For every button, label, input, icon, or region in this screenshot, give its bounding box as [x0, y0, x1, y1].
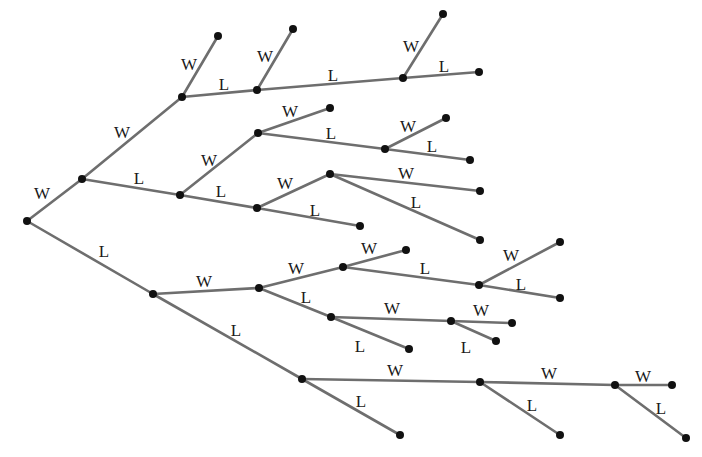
- tree-node-dot: [682, 434, 690, 442]
- win-label: W: [181, 55, 198, 74]
- tree-node-dot: [475, 281, 483, 289]
- tree-node-dot: [149, 290, 157, 298]
- win-loss-tree-diagram: WLWLWLWLWLWLWLWLWLWLWLWLWLWLWLWLWLWLWL: [0, 0, 702, 457]
- tree-node-dot: [476, 236, 484, 244]
- win-label: W: [288, 259, 305, 278]
- tree-node-dot: [178, 93, 186, 101]
- tree-node-dot: [327, 313, 335, 321]
- loss-label: L: [310, 201, 320, 220]
- tree-node-dot: [23, 217, 31, 225]
- tree-node-dot: [556, 294, 564, 302]
- tree-node-dot: [399, 74, 407, 82]
- edge-labels: WLWLWLWLWLWLWLWLWLWLWLWLWLWLWLWLWLWLWL: [34, 37, 666, 418]
- tree-node-dot: [289, 25, 297, 33]
- tree-node-dot: [492, 337, 500, 345]
- loss-branch: [27, 221, 153, 294]
- loss-branch: [343, 267, 479, 285]
- tree-node-dot: [253, 86, 261, 94]
- tree-node-dot: [508, 319, 516, 327]
- win-label: W: [196, 272, 213, 291]
- win-branch: [451, 321, 512, 323]
- win-branch: [82, 97, 182, 179]
- tree-node-dot: [253, 204, 261, 212]
- loss-label: L: [326, 124, 336, 143]
- tree-node-dot: [611, 381, 619, 389]
- tree-node-dot: [326, 170, 334, 178]
- loss-label: L: [420, 259, 430, 278]
- loss-branch: [257, 208, 360, 226]
- win-label: W: [398, 164, 415, 183]
- tree-node-dot: [466, 156, 474, 164]
- tree-nodes: [23, 10, 690, 442]
- tree-node-dot: [214, 32, 222, 40]
- loss-label: L: [516, 275, 526, 294]
- win-label: W: [34, 184, 51, 203]
- loss-label: L: [356, 392, 366, 411]
- tree-node-dot: [254, 129, 262, 137]
- tree-node-dot: [298, 375, 306, 383]
- loss-label: L: [231, 321, 241, 340]
- tree-node-dot: [396, 431, 404, 439]
- loss-branch: [153, 294, 302, 379]
- loss-label: L: [219, 75, 229, 94]
- loss-label: L: [301, 288, 311, 307]
- loss-label: L: [99, 242, 109, 261]
- tree-node-dot: [442, 114, 450, 122]
- loss-branch: [82, 179, 180, 195]
- win-label: W: [503, 246, 520, 265]
- tree-node-dot: [447, 317, 455, 325]
- win-label: W: [403, 37, 420, 56]
- loss-label: L: [216, 182, 226, 201]
- tree-node-dot: [326, 104, 334, 112]
- loss-branch: [451, 321, 496, 341]
- loss-branch: [615, 385, 686, 438]
- win-label: W: [361, 239, 378, 258]
- win-label: W: [541, 364, 558, 383]
- tree-node-dot: [475, 68, 483, 76]
- tree-node-dot: [255, 284, 263, 292]
- loss-label: L: [355, 337, 365, 356]
- win-label: W: [277, 174, 294, 193]
- loss-label: L: [656, 399, 666, 418]
- loss-branch: [331, 317, 409, 349]
- loss-branch: [480, 382, 560, 435]
- win-label: W: [473, 301, 490, 320]
- loss-label: L: [427, 137, 437, 156]
- tree-node-dot: [476, 187, 484, 195]
- loss-label: L: [328, 66, 338, 85]
- tree-node-dot: [402, 246, 410, 254]
- loss-branch: [330, 174, 480, 240]
- tree-node-dot: [176, 191, 184, 199]
- tree-node-dot: [78, 175, 86, 183]
- win-label: W: [282, 102, 299, 121]
- win-label: W: [400, 117, 417, 136]
- loss-branch: [259, 288, 331, 317]
- win-label: W: [201, 151, 218, 170]
- tree-node-dot: [339, 263, 347, 271]
- tree-node-dot: [668, 381, 676, 389]
- win-label: W: [384, 299, 401, 318]
- tree-node-dot: [356, 222, 364, 230]
- win-label: W: [114, 123, 131, 142]
- win-label: W: [387, 361, 404, 380]
- loss-branch: [258, 133, 385, 149]
- tree-node-dot: [476, 378, 484, 386]
- tree-node-dot: [405, 345, 413, 353]
- loss-label: L: [411, 193, 421, 212]
- tree-node-dot: [556, 238, 564, 246]
- loss-label: L: [134, 169, 144, 188]
- loss-branch: [302, 379, 400, 435]
- win-label: W: [257, 47, 274, 66]
- tree-node-dot: [381, 145, 389, 153]
- loss-label: L: [461, 338, 471, 357]
- win-label: W: [635, 367, 652, 386]
- loss-label: L: [439, 57, 449, 76]
- tree-node-dot: [439, 10, 447, 18]
- loss-label: L: [527, 396, 537, 415]
- tree-node-dot: [556, 431, 564, 439]
